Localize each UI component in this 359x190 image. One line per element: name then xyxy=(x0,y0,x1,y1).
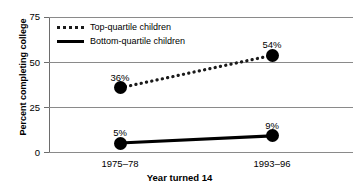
data-point-bottom-quartile-1993 xyxy=(266,129,279,142)
solid-line-icon xyxy=(57,40,84,43)
legend-item-top-quartile: Top-quartile children xyxy=(57,20,217,34)
data-point-top-quartile-1975 xyxy=(114,81,127,94)
data-label-bottom-quartile-1993: 9% xyxy=(265,120,279,131)
legend-label-bottom-quartile: Bottom-quartile children xyxy=(90,36,185,46)
y-tick-label-50: 50 xyxy=(10,58,40,68)
data-point-top-quartile-1993 xyxy=(266,49,279,62)
legend-item-bottom-quartile: Bottom-quartile children xyxy=(57,34,217,48)
x-tick-label-1975: 1975–78 xyxy=(102,158,139,169)
data-label-top-quartile-1975: 36% xyxy=(110,72,129,83)
gridline-0 xyxy=(49,152,353,153)
gridline-25 xyxy=(49,107,353,108)
gridline-50 xyxy=(49,62,353,63)
data-label-bottom-quartile-1975: 5% xyxy=(113,127,127,138)
data-point-bottom-quartile-1975 xyxy=(114,137,127,150)
dotted-line-icon xyxy=(57,26,84,29)
y-tick-label-25: 25 xyxy=(10,103,40,113)
y-tick-label-75: 75 xyxy=(10,12,40,22)
y-axis-title: Percent completing college xyxy=(18,2,28,152)
legend: Top-quartile children Bottom-quartile ch… xyxy=(57,20,217,48)
data-label-top-quartile-1993: 54% xyxy=(262,39,281,50)
y-tick-label-0: 0 xyxy=(10,148,40,158)
x-tick-label-1993: 1993–96 xyxy=(254,158,291,169)
x-axis-title: Year turned 14 xyxy=(0,172,359,183)
gridline-75 xyxy=(49,17,353,18)
legend-label-top-quartile: Top-quartile children xyxy=(90,22,171,32)
chart-container: Percent completing college 75 50 25 0 To… xyxy=(0,0,359,190)
